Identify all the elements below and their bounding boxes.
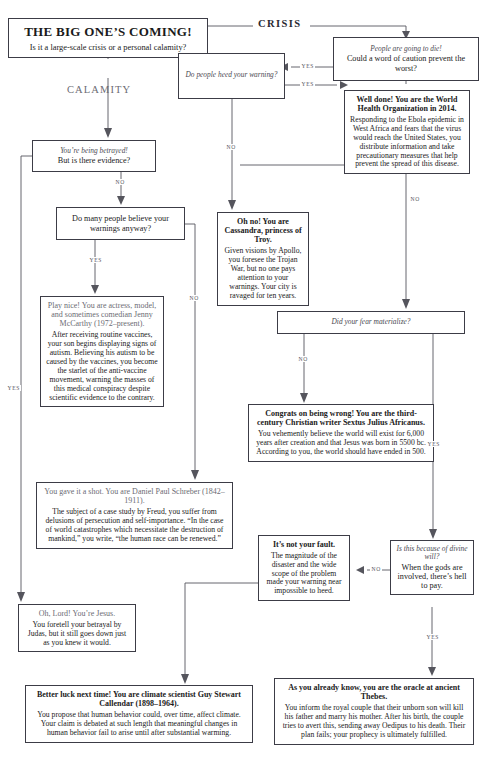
question-do-people-heed[interactable]: Do people heed your warning? <box>178 53 285 99</box>
arrow-to-fault <box>356 566 364 574</box>
answer-heading: Oh, Lord! You’re Jesus. <box>24 609 130 618</box>
question-prompt: Is this because of divine will? <box>396 545 468 562</box>
arrow-to-thebes <box>428 667 436 676</box>
edge-label-divine-no: NO <box>370 566 382 572</box>
answer-jesus[interactable]: Oh, Lord! You’re Jesus. You foretell you… <box>18 604 136 652</box>
answer-guy-stewart-callendar[interactable]: Better luck next time! You are climate s… <box>25 685 253 743</box>
edge-label-betray-no: NO <box>114 179 126 185</box>
arrow-to-betray <box>104 128 112 138</box>
edge-label-betray-yes: YES <box>6 385 21 391</box>
arrow-to-who <box>340 81 348 89</box>
question-text: When the gods are involved, there’s hell… <box>396 563 468 591</box>
answer-heading: Play nice! You are actress, model, and s… <box>46 301 158 329</box>
wire-fault-down <box>185 583 258 677</box>
answer-body: You vehemently believe the world will ex… <box>254 430 428 457</box>
edge-label-fear-yes: YES <box>426 441 441 447</box>
arrow-to-believe <box>117 196 125 205</box>
answer-oracle-at-thebes[interactable]: As you already know, you are the oracle … <box>274 678 474 745</box>
answer-heading: Oh no! You are Cassandra, princess of Tr… <box>223 217 303 245</box>
wire-betray-yes <box>21 156 32 595</box>
edge-label-divine-yes: YES <box>425 634 440 640</box>
question-do-many-people-believe[interactable]: Do many people believe your warnings any… <box>56 207 185 240</box>
answer-heading: Better luck next time! You are climate s… <box>31 690 247 708</box>
edge-label-heed-no: NO <box>225 144 237 150</box>
answer-heading: You gave it a shot. You are Daniel Paul … <box>42 487 227 505</box>
question-divine-will[interactable]: Is this because of divine will? When the… <box>390 540 474 595</box>
answer-sextus-julius-africanus[interactable]: Congrats on being wrong! You are the thi… <box>248 404 434 462</box>
question-prompt: Did your fear materialize? <box>283 318 459 326</box>
question-prompt: Do people heed your warning? <box>184 71 279 79</box>
branch-label-calamity: CALAMITY <box>67 84 131 95</box>
answer-body: After receiving routine vaccines, your s… <box>46 331 158 402</box>
edge-label-die-yes: YES <box>300 63 315 69</box>
arrow-to-cassandra <box>228 200 236 210</box>
arrow-to-divine <box>429 529 437 539</box>
arrow-to-mccarthy <box>91 285 99 294</box>
answer-body: The subject of a case study by Freud, yo… <box>42 508 227 544</box>
answer-body: Given visions by Apollo, you foresee the… <box>223 247 303 301</box>
question-text: But is there evidence? <box>38 156 150 165</box>
edge-label-believe-no: NO <box>188 295 200 301</box>
answer-daniel-paul-schreber[interactable]: You gave it a shot. You are Daniel Paul … <box>36 482 233 549</box>
arrow-to-fear <box>402 299 410 309</box>
page-subtitle: Is it a large-scale crisis or a personal… <box>15 43 201 52</box>
answer-cassandra[interactable]: Oh no! You are Cassandra, princess of Tr… <box>217 212 309 306</box>
question-prompt: People are going to die! <box>339 45 473 53</box>
question-being-betrayed[interactable]: You’re being betrayed! But is there evid… <box>32 140 156 172</box>
branch-label-crisis: CRISIS <box>258 18 301 29</box>
answer-heading: It’s not your fault. <box>264 540 344 549</box>
arrow-to-jesus <box>17 592 25 602</box>
answer-not-your-fault[interactable]: It’s not your fault. The magnitude of th… <box>258 535 350 601</box>
title-box: THE BIG ONE’S COMING! Is it a large-scal… <box>8 18 208 58</box>
answer-heading: Well done! You are the World Health Orga… <box>350 95 464 113</box>
arrow-to-callendar <box>181 674 189 684</box>
answer-body: Responding to the Ebola epidemic in West… <box>350 116 464 170</box>
answer-body: You foretell your betrayal by Judas, but… <box>24 621 130 648</box>
answer-body: The magnitude of the disaster and the wi… <box>264 552 344 597</box>
answer-heading: As you already know, you are the oracle … <box>280 683 468 701</box>
question-did-fear-materialize[interactable]: Did your fear materialize? <box>277 311 465 334</box>
arrow-to-schreber <box>191 470 199 480</box>
arrow-to-sextus <box>300 393 308 403</box>
edge-label-believe-yes: YES <box>88 257 103 263</box>
answer-heading: Congrats on being wrong! You are the thi… <box>254 409 428 427</box>
question-prompt: You’re being betrayed! <box>38 147 150 155</box>
edge-label-fear-no: NO <box>297 356 309 362</box>
question-people-going-to-die[interactable]: People are going to die! Could a word of… <box>333 37 479 81</box>
answer-jenny-mccarthy[interactable]: Play nice! You are actress, model, and s… <box>40 296 164 407</box>
page-title: THE BIG ONE’S COMING! <box>15 24 201 40</box>
question-text: Do many people believe your warnings any… <box>62 214 179 232</box>
answer-body: You propose that human behavior could, o… <box>31 711 247 738</box>
edge-label-die-no: NO <box>409 196 421 202</box>
question-text: Could a word of caution prevent the wors… <box>339 54 473 72</box>
wire-believe-no <box>185 224 195 473</box>
edge-label-heed-yes: YES <box>300 81 315 87</box>
answer-world-health-organization[interactable]: Well done! You are the World Health Orga… <box>344 90 470 174</box>
flowchart-canvas: THE BIG ONE’S COMING! Is it a large-scal… <box>0 0 485 768</box>
answer-body: You inform the royal couple that their u… <box>280 704 468 740</box>
